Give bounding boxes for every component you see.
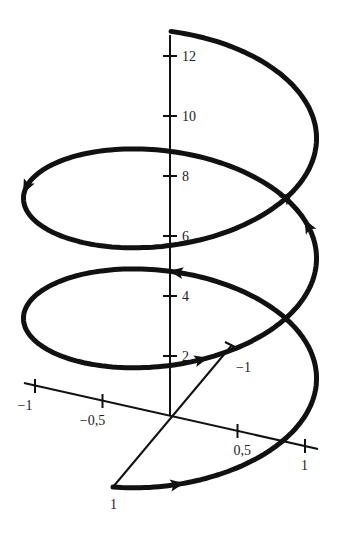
helix-chart: 24681012−1−0,50,511−1 — [0, 0, 349, 534]
z-tick-label: 12 — [182, 49, 196, 64]
z-tick-label: 10 — [182, 109, 196, 124]
direction-arrows — [18, 178, 317, 491]
axes — [24, 35, 318, 487]
z-tick-label: 8 — [182, 169, 189, 184]
x-tick-label: 1 — [301, 458, 308, 473]
z-tick-label: 4 — [182, 289, 189, 304]
x-tick-label: 0,5 — [234, 443, 252, 458]
x-tick-label: −1 — [18, 398, 33, 413]
x-tick-label: −0,5 — [80, 413, 105, 428]
y-tick-label: 1 — [110, 497, 117, 512]
y-tick-label: −1 — [236, 360, 251, 375]
